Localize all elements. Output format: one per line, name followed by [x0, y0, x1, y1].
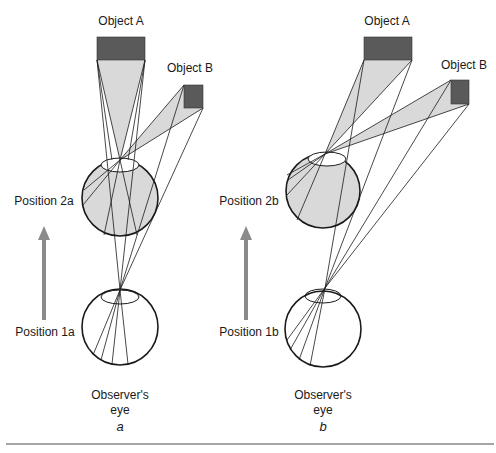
- object-a-label: Object A: [98, 14, 143, 29]
- panel-caption: b: [319, 419, 326, 434]
- object-b-block: [451, 80, 469, 104]
- observer-eye-label: Observer's eye: [294, 388, 352, 418]
- panel-caption: a: [116, 419, 123, 434]
- object-a-label: Object A: [364, 14, 409, 29]
- lower-eye-globe: [285, 291, 361, 367]
- diagram-canvas: [0, 0, 496, 453]
- movement-arrow-head-icon: [38, 226, 50, 240]
- lower-position-label: Position 1a: [15, 325, 74, 340]
- observer-label-line1: Observer's: [91, 388, 149, 403]
- lower-position-label: Position 1b: [219, 325, 278, 340]
- upper-position-label: Position 2a: [14, 194, 73, 209]
- movement-arrow-head-icon: [240, 226, 252, 240]
- observer-label-line2: eye: [294, 403, 352, 418]
- object-b-label: Object B: [167, 61, 213, 76]
- object-b-block: [184, 85, 203, 108]
- observer-label-line2: eye: [91, 403, 149, 418]
- observer-eye-label: Observer's eye: [91, 388, 149, 418]
- object-a-block: [364, 37, 412, 60]
- object-a-block: [97, 37, 145, 60]
- object-b-label: Object B: [441, 58, 487, 73]
- upper-eye-lens: [308, 152, 346, 166]
- observer-label-line1: Observer's: [294, 388, 352, 403]
- upper-position-label: Position 2b: [219, 194, 278, 209]
